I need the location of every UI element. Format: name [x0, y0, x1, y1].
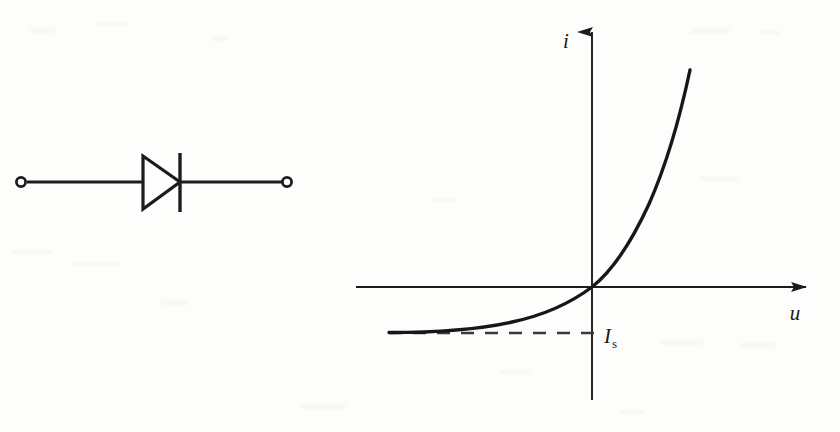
saturation-current-subscript: s — [612, 336, 617, 351]
cathode-terminal-node — [282, 177, 291, 186]
figure-canvas: i u Is — [0, 0, 840, 432]
y-axis-label: i — [563, 29, 569, 53]
diode-symbol-group — [16, 153, 291, 212]
diode-figure: i u Is — [0, 0, 840, 432]
diode-anode-triangle-icon — [143, 156, 180, 209]
iv-characteristic-chart: i u Is — [356, 29, 806, 400]
anode-terminal-node — [16, 177, 25, 186]
x-axis-label: u — [790, 301, 801, 325]
saturation-current-label: Is — [603, 324, 617, 351]
saturation-current-symbol: I — [603, 324, 612, 348]
diode-iv-curve — [389, 70, 690, 333]
